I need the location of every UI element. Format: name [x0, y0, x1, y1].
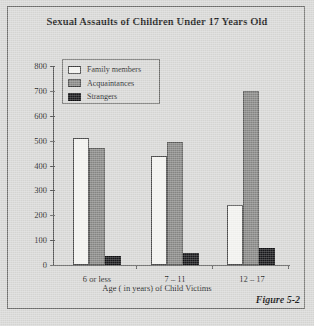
ytick-label-800: 800 [34, 61, 47, 71]
legend-item-acquaintances: Acquaintances [68, 77, 155, 91]
ytick-800 [50, 66, 55, 67]
ytick-label-400: 400 [34, 161, 47, 171]
ytick-300 [50, 190, 55, 191]
ytick-700 [50, 91, 55, 92]
legend-label-strangers: Strangers [87, 92, 117, 101]
legend-swatch-strangers-icon [68, 93, 81, 101]
bar-acquaintances-6-or-less [89, 148, 105, 265]
xtick-divider-1 [136, 265, 137, 269]
ytick-label-0: 0 [43, 260, 47, 270]
bar-strangers-12-17 [259, 248, 275, 265]
chart-title: Sexual Assaults of Children Under 17 Yea… [0, 16, 314, 27]
bar-family-members-6-or-less [73, 138, 89, 265]
chart-legend: Family members Acquaintances Strangers [62, 59, 160, 104]
figure-caption: Figure 5-2 [256, 294, 300, 305]
ytick-200 [50, 215, 55, 216]
bar-strangers-7-11 [183, 253, 199, 265]
ytick-label-700: 700 [34, 86, 47, 96]
bar-family-members-7-11 [151, 156, 167, 265]
bar-group-12-17 [214, 66, 288, 265]
bar-acquaintances-7-11 [167, 142, 183, 265]
bar-family-members-12-17 [227, 205, 243, 265]
ytick-100 [50, 240, 55, 241]
bar-acquaintances-12-17 [243, 91, 259, 265]
xtick-divider-3 [288, 265, 289, 269]
xaxis-title: Age ( in years) of Child Victims [0, 283, 314, 293]
ytick-500 [50, 141, 55, 142]
ytick-label-300: 300 [34, 185, 47, 195]
ytick-0 [50, 265, 55, 266]
bar-strangers-6-or-less [105, 256, 121, 265]
legend-label-family-members: Family members [87, 65, 141, 74]
ytick-label-200: 200 [34, 210, 47, 220]
ytick-600 [50, 116, 55, 117]
ytick-label-600: 600 [34, 111, 47, 121]
legend-label-acquaintances: Acquaintances [87, 79, 134, 88]
legend-item-family-members: Family members [68, 63, 155, 77]
ytick-label-500: 500 [34, 136, 47, 146]
ytick-label-100: 100 [34, 235, 47, 245]
legend-item-strangers: Strangers [68, 90, 155, 104]
xtick-divider-2 [212, 265, 213, 269]
ytick-400 [50, 166, 55, 167]
figure-page: Sexual Assaults of Children Under 17 Yea… [0, 0, 314, 326]
legend-swatch-acquaintances-icon [68, 79, 81, 87]
legend-swatch-family-members-icon [68, 66, 81, 74]
